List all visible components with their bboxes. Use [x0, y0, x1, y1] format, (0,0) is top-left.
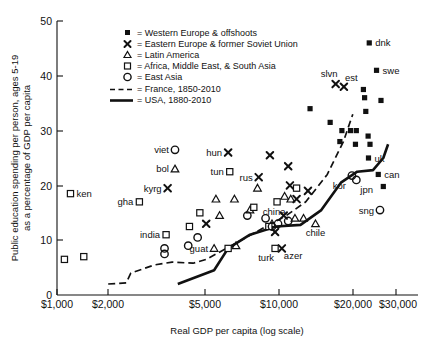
point-label-chile: chile — [306, 227, 326, 238]
point-label-kyrg: kyrg — [144, 183, 162, 194]
data-point-circle-9 — [194, 234, 201, 241]
legend-label-3: = Africa, Middle East, & South Asia — [137, 61, 276, 71]
data-point-sng — [376, 206, 383, 213]
point-label-can: can — [384, 169, 399, 180]
data-point-filled-square-14 — [367, 142, 372, 147]
point-label-hun: hun — [206, 147, 222, 158]
point-label-sng: sng — [359, 205, 374, 216]
data-point-triangle-2 — [281, 193, 289, 200]
data-point-turk — [272, 245, 278, 251]
chart-root: 50 40 30 20 10 0 $1,000 $2,000 $5,000 $1… — [0, 0, 424, 348]
data-point-slvn — [332, 81, 339, 88]
data-point-swe — [374, 68, 379, 73]
data-point-uk — [366, 155, 371, 160]
point-label-ken: ken — [76, 188, 91, 199]
point-label-bol: bol — [156, 163, 169, 174]
data-point-filled-square-9 — [348, 128, 353, 133]
point-label-viet: viet — [154, 144, 169, 155]
trend-lines-layer — [108, 114, 388, 284]
x-tick-labels: $1,000 $2,000 $5,000 $10,000 $20,000 $30… — [41, 298, 417, 310]
data-point-open-square-5 — [251, 204, 257, 210]
legend-filled-square-icon — [125, 30, 130, 35]
data-point-hun — [225, 149, 232, 156]
data-point-tun — [227, 169, 233, 175]
legend-label-0: = Western Europe & offshoots — [137, 28, 257, 38]
trend-line-france — [108, 114, 353, 284]
data-point-ken — [67, 191, 73, 197]
x-tick-label-10000: $10,000 — [260, 298, 298, 310]
data-point-india — [163, 232, 169, 238]
data-point-filled-square-10 — [354, 128, 359, 133]
data-point-filled-square-5 — [363, 109, 368, 114]
y-tick-label-40: 40 — [40, 70, 52, 82]
data-point-gha — [136, 199, 142, 205]
data-point-kyrg — [164, 185, 171, 192]
chart-svg: 50 40 30 20 10 0 $1,000 $2,000 $5,000 $1… — [0, 0, 424, 348]
y-axis-title-line2: as a percentage of GDP per capita — [21, 84, 32, 231]
x-tick-label-1000: $1,000 — [41, 298, 73, 310]
data-point-open-square-10 — [61, 256, 67, 262]
data-point-open-square-12 — [225, 245, 231, 251]
data-point-x-6 — [287, 182, 294, 189]
data-point-dnk — [367, 40, 372, 45]
data-point-triangle-1 — [254, 184, 262, 191]
point-label-azer: azer — [284, 250, 302, 261]
data-point-triangle-7 — [216, 212, 224, 219]
data-point-viet — [171, 146, 178, 153]
legend-label-6: = USA, 1880-2010 — [137, 95, 211, 105]
point-label-guat: guat — [190, 243, 209, 254]
legend-label-2: = Latin America — [137, 50, 199, 60]
point-label-dnk: dnk — [375, 37, 391, 48]
legend-open-square-icon — [125, 63, 131, 69]
point-label-slvn: slvn — [321, 68, 338, 79]
data-point-filled-square-17 — [381, 184, 386, 189]
data-point-open-square-6 — [197, 210, 203, 216]
data-point-triangle-9 — [300, 214, 308, 221]
data-point-filled-square-4 — [378, 98, 383, 103]
scatter-plot: 50 40 30 20 10 0 $1,000 $2,000 $5,000 $1… — [0, 0, 424, 348]
data-point-x-11 — [203, 220, 210, 227]
data-point-filled-square-8 — [339, 128, 344, 133]
point-label-tun: tun — [211, 166, 224, 177]
x-tick-label-5000: $5,000 — [189, 298, 221, 310]
y-tick-labels: 50 40 30 20 10 0 — [40, 15, 52, 301]
data-point-est — [341, 83, 348, 90]
chart-legend: = Western Europe & offshoots = Eastern E… — [110, 28, 298, 105]
y-tick-label-10: 10 — [40, 234, 52, 246]
point-label-jpn: jpn — [359, 184, 373, 195]
data-point-open-square-7 — [186, 223, 192, 229]
data-point-filled-square-3 — [362, 95, 367, 100]
data-point-open-square-4 — [274, 199, 280, 205]
point-label-rus: rus — [239, 172, 252, 183]
y-tick-label-30: 30 — [40, 125, 52, 137]
x-tick-label-20000: $20,000 — [334, 298, 372, 310]
data-point-filled-square-12 — [353, 142, 358, 147]
point-label-kor: kor — [333, 180, 346, 191]
data-point-rus — [255, 174, 262, 181]
data-point-filled-square-6 — [307, 106, 312, 111]
point-label-turk: turk — [258, 252, 274, 263]
y-tick-label-50: 50 — [40, 15, 52, 27]
x-axis-title: Real GDP per capita (log scale) — [170, 325, 303, 336]
data-point-guat — [210, 245, 218, 252]
point-label-gha: gha — [118, 196, 135, 207]
data-point-x-3 — [267, 152, 274, 159]
data-point-open-square-11 — [81, 254, 87, 260]
legend-label-1: = Eastern Europe & former Soviet Union — [137, 39, 298, 49]
legend-triangle-icon — [124, 52, 131, 58]
data-point-chile — [312, 220, 320, 227]
y-axis-title-line1: Public education spending per person, ag… — [9, 55, 20, 262]
x-tick-label-2000: $2,000 — [92, 298, 124, 310]
data-point-jpn — [353, 176, 360, 183]
data-point-x-4 — [285, 163, 292, 170]
point-labels-layer: dnksweukcanslvnesthunruskyrgazerbolchile… — [76, 37, 399, 263]
legend-circle-icon — [124, 73, 131, 80]
data-point-filled-square-7 — [328, 120, 333, 125]
point-label-india: india — [140, 229, 161, 240]
data-point-x-7 — [305, 188, 312, 195]
point-label-swe: swe — [383, 65, 400, 76]
point-label-est: est — [345, 72, 358, 83]
y-tick-label-20: 20 — [40, 180, 52, 192]
legend-label-4: = East Asia — [137, 72, 182, 82]
data-point-circle-12 — [161, 250, 168, 257]
